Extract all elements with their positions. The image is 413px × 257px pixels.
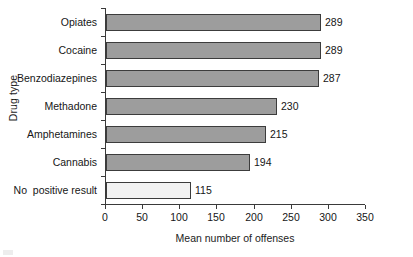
bar[interactable] — [106, 14, 321, 31]
x-axis-title: Mean number of offenses — [105, 232, 365, 244]
x-axis-tick — [365, 205, 366, 209]
x-axis-tick — [179, 205, 180, 209]
bar-value-label: 215 — [270, 128, 288, 140]
bar-value-label: 194 — [254, 156, 272, 168]
y-axis-tick — [101, 120, 105, 121]
bar-value-label: 287 — [323, 72, 341, 84]
y-axis-tick — [101, 36, 105, 37]
y-axis-tick — [101, 148, 105, 149]
bar[interactable] — [106, 42, 321, 59]
bar[interactable] — [106, 154, 250, 171]
x-axis-tick-label: 300 — [308, 211, 348, 223]
bar[interactable] — [106, 70, 319, 87]
y-axis-tick — [101, 176, 105, 177]
x-axis-tick — [216, 205, 217, 209]
x-axis-tick — [328, 205, 329, 209]
y-axis-tick-label: Cannabis — [0, 157, 97, 168]
bar-value-label: 115 — [195, 184, 212, 196]
y-axis-tick-label: Amphetamines — [0, 129, 97, 140]
y-axis-tick-label: Cocaine — [0, 45, 97, 56]
bar[interactable] — [106, 98, 277, 115]
x-axis-tick-label: 100 — [159, 211, 199, 223]
x-axis-tick — [254, 205, 255, 209]
x-axis-tick-label: 250 — [271, 211, 311, 223]
x-axis-line — [105, 204, 365, 205]
x-axis-tick — [142, 205, 143, 209]
y-axis-tick-labels: Opiates Cocaine Benzodiazepines Methadon… — [4, 8, 101, 204]
x-axis-tick — [105, 205, 106, 209]
x-axis-tick-label: 350 — [345, 211, 385, 223]
bar-value-label: 289 — [325, 16, 343, 28]
bar-value-label: 289 — [325, 44, 343, 56]
plot-area: 289 289 287 230 215 194 115 — [105, 8, 365, 204]
bar[interactable] — [106, 126, 266, 143]
y-axis-tick-label: Opiates — [0, 17, 97, 28]
x-axis-tick-label: 0 — [85, 211, 125, 223]
y-axis-tick-label: No positive result — [0, 185, 97, 196]
y-axis-tick-label: Benzodiazepines — [0, 73, 97, 84]
x-axis-tick-label: 50 — [122, 211, 162, 223]
x-axis-tick — [291, 205, 292, 209]
scan-artifact — [3, 250, 13, 255]
bar-chart: Drug type Opiates Cocaine Benzodiazepine… — [0, 0, 413, 257]
y-axis-tick — [101, 8, 105, 9]
y-axis-tick — [101, 92, 105, 93]
bar-value-label: 230 — [281, 100, 299, 112]
x-axis-tick-label: 200 — [234, 211, 274, 223]
x-axis-tick-label: 150 — [196, 211, 236, 223]
bar[interactable] — [106, 182, 191, 199]
y-axis-tick — [101, 64, 105, 65]
y-axis-tick-label: Methadone — [0, 101, 97, 112]
